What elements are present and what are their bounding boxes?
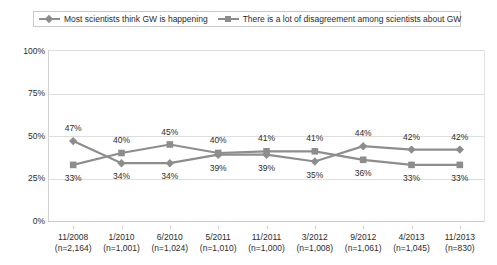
- x-axis-category-label: 11/2008(n=2,164): [55, 232, 92, 254]
- x-axis-category-date: 1/2010: [109, 232, 135, 242]
- data-label: 41%: [258, 134, 275, 143]
- x-axis-tick: [460, 226, 461, 229]
- y-axis-tick-label: 50%: [5, 132, 45, 141]
- x-axis-category-sample-size: (n=1,001): [103, 243, 140, 254]
- x-axis-category-date: 3/2012: [302, 232, 328, 242]
- x-axis-tick: [122, 226, 123, 229]
- diamond-marker-icon: [117, 159, 125, 167]
- data-label: 39%: [258, 164, 275, 173]
- x-axis-category-label: 6/2010(n=1,024): [152, 232, 189, 254]
- diamond-marker-icon: [69, 137, 77, 145]
- chart-screenshot: Most scientists think GW is happening Th…: [0, 0, 497, 265]
- x-axis-category-sample-size: (n=830): [445, 243, 475, 254]
- square-marker-icon: [70, 162, 77, 169]
- square-marker-icon: [263, 148, 270, 155]
- x-axis-category-label: 9/2012(n=1,061): [345, 232, 382, 254]
- x-axis-category-sample-size: (n=2,164): [55, 243, 92, 254]
- chart-legend: Most scientists think GW is happening Th…: [33, 11, 461, 27]
- x-axis-category-date: 11/2013: [445, 232, 475, 242]
- y-axis-tick-label: 25%: [5, 174, 45, 183]
- legend-label-series-2: There is a lot of disagreement among sci…: [243, 14, 462, 24]
- x-axis-category-label: 11/2013(n=830): [445, 232, 475, 254]
- data-label: 33%: [65, 174, 82, 183]
- legend-entry-scientists-think-gw[interactable]: Most scientists think GW is happening: [39, 14, 208, 24]
- plot-area: 47%34%34%39%39%35%44%42%42%33%40%45%40%4…: [48, 50, 485, 222]
- x-axis-category-date: 9/2012: [350, 232, 376, 242]
- square-marker-icon: [408, 162, 415, 169]
- x-axis-category-sample-size: (n=1,045): [393, 243, 430, 254]
- legend-label-series-1: Most scientists think GW is happening: [64, 14, 208, 24]
- y-axis: 0%25%50%75%100%: [2, 0, 45, 265]
- x-axis-category-label: 1/2010(n=1,001): [103, 232, 140, 254]
- diamond-marker-icon: [166, 159, 174, 167]
- x-axis-tick: [73, 226, 74, 229]
- data-label: 36%: [355, 169, 372, 178]
- diamond-marker-icon: [456, 145, 464, 153]
- data-label: 33%: [403, 174, 420, 183]
- square-marker-icon: [218, 14, 239, 24]
- diamond-marker-icon: [359, 142, 367, 150]
- gridline: [49, 94, 484, 95]
- diamond-marker-icon: [311, 157, 319, 165]
- x-axis-category-date: 11/2011: [252, 232, 281, 242]
- x-axis-tick: [170, 226, 171, 229]
- square-marker-icon: [360, 157, 367, 164]
- x-axis-category-date: 4/2013: [399, 232, 425, 242]
- data-label: 40%: [113, 136, 130, 145]
- x-axis-category-sample-size: (n=1,061): [345, 243, 382, 254]
- x-axis-tick: [218, 226, 219, 229]
- x-axis-category-date: 5/2011: [205, 232, 230, 242]
- x-axis-category-label: 3/2012(n=1,008): [297, 232, 334, 254]
- data-label: 42%: [403, 133, 420, 142]
- data-label: 45%: [161, 128, 178, 137]
- x-axis-category-label: 4/2013(n=1,045): [393, 232, 430, 254]
- x-axis-category-label: 5/2011(n=1,010): [200, 232, 237, 254]
- data-label: 41%: [306, 134, 323, 143]
- data-label: 34%: [113, 172, 130, 181]
- legend-entry-disagreement-among-scientists[interactable]: There is a lot of disagreement among sci…: [218, 14, 462, 24]
- data-label: 40%: [210, 136, 227, 145]
- square-marker-icon: [215, 150, 222, 157]
- x-axis-category-sample-size: (n=1,024): [152, 243, 189, 254]
- x-axis: 11/2008(n=2,164)1/2010(n=1,001)6/2010(n=…: [48, 226, 485, 258]
- square-marker-icon: [457, 162, 464, 169]
- data-label: 47%: [65, 124, 82, 133]
- y-axis-tick-label: 75%: [5, 89, 45, 98]
- x-axis-tick: [315, 226, 316, 229]
- x-axis-category-date: 6/2010: [157, 232, 183, 242]
- data-label: 34%: [161, 172, 178, 181]
- data-label: 44%: [355, 129, 372, 138]
- x-axis-category-sample-size: (n=1,008): [297, 243, 334, 254]
- square-marker-icon: [312, 148, 319, 155]
- diamond-marker-icon: [407, 145, 415, 153]
- data-label: 39%: [210, 164, 227, 173]
- x-axis-tick: [363, 226, 364, 229]
- x-axis-category-date: 11/2008: [58, 232, 88, 242]
- y-axis-tick-label: 0%: [5, 217, 45, 226]
- x-axis-tick: [267, 226, 268, 229]
- x-axis-category-sample-size: (n=1,010): [200, 243, 237, 254]
- square-marker-icon: [118, 150, 125, 157]
- data-label: 33%: [451, 174, 468, 183]
- data-label: 42%: [451, 133, 468, 142]
- y-axis-tick-label: 100%: [5, 47, 45, 56]
- square-marker-icon: [167, 141, 174, 148]
- x-axis-tick: [412, 226, 413, 229]
- x-axis-category-label: 11/2011(n=1,000): [248, 232, 285, 254]
- x-axis-category-sample-size: (n=1,000): [248, 243, 285, 254]
- data-label: 35%: [306, 171, 323, 180]
